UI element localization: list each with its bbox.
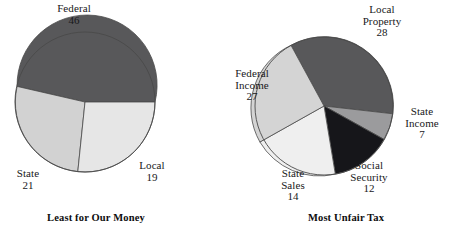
pie-label-social-security-name-line1: Social: [337, 160, 401, 172]
pie-label-state: State 21: [0, 168, 58, 191]
pie-label-federal-income-name-line1: Federal: [219, 68, 285, 80]
pie-label-federal-name: Federal: [38, 3, 110, 15]
pie-label-federal-income: Federal Income 27: [219, 68, 285, 103]
pie-label-state-sales: State Sales 14: [265, 168, 321, 203]
pie-label-state-sales-value: 14: [265, 191, 321, 203]
pie-label-local-property: Local Property 28: [346, 4, 418, 39]
pie-label-social-security-value: 12: [337, 183, 401, 195]
pie-label-local-property-value: 28: [346, 27, 418, 39]
pie-label-federal-income-value: 27: [219, 91, 285, 103]
pie-label-state-income-name-line1: State: [393, 106, 451, 118]
pie-label-local-property-name-line1: Local: [346, 4, 418, 16]
figure-most-unfair-tax: Local Property 28 State Income 7 Social …: [229, 0, 458, 242]
pie-label-federal-value: 46: [38, 15, 110, 27]
pie-label-state-name: State: [0, 168, 58, 180]
pie-label-federal: Federal 46: [38, 3, 110, 26]
pie-label-state-income: State Income 7: [393, 106, 451, 141]
pie-label-state-income-value: 7: [393, 129, 451, 141]
pie-label-state-value: 21: [0, 180, 58, 192]
pie-label-local: Local 19: [124, 160, 180, 183]
pie-label-social-security: Social Security 12: [337, 160, 401, 195]
figure-least-for-our-money: Federal 46 State 21 Local 19 Least for O…: [0, 0, 229, 242]
pie-slice-federal: [17, 15, 157, 102]
pie-label-state-sales-name-line1: State: [265, 168, 321, 180]
chart-caption-most-unfair-tax: Most Unfair Tax: [281, 212, 411, 223]
pie-chart-figure-pair: Federal 46 State 21 Local 19 Least for O…: [0, 0, 458, 242]
chart-caption-least-for-our-money: Least for Our Money: [6, 212, 186, 223]
pie-label-local-value: 19: [124, 172, 180, 184]
pie-label-local-name: Local: [124, 160, 180, 172]
